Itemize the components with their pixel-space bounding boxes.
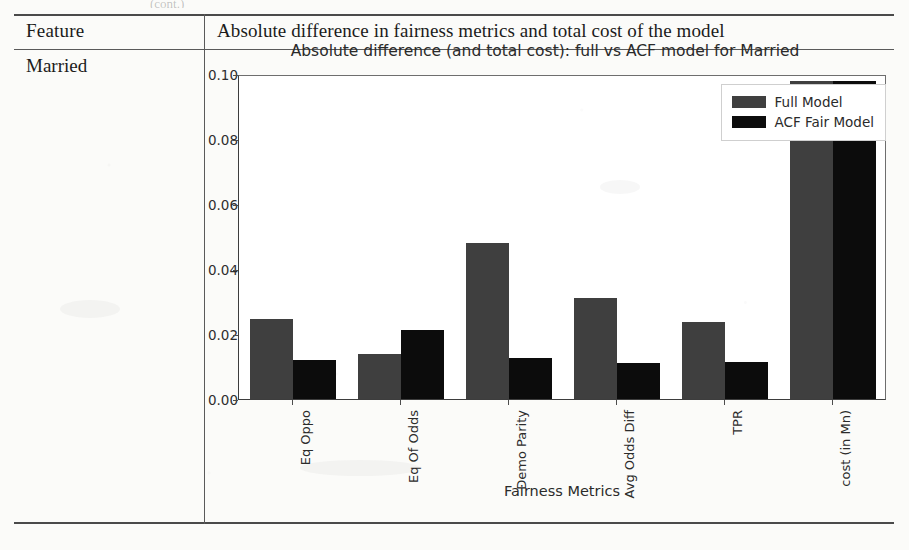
bar-full-model [250,319,293,399]
bar-acf-fair-model [293,360,336,399]
legend-item-full-model: Full Model [732,92,874,112]
bar-full-model [358,354,401,400]
x-axis-tick-mark [616,400,617,405]
bar-acf-fair-model [725,362,768,399]
x-axis-tick-mark [832,400,833,405]
y-axis-tick-mark [233,400,238,401]
chart-legend: Full Model ACF Fair Model [721,84,886,141]
x-axis-tick-mark [292,400,293,405]
table-top-rule [14,14,894,16]
legend-swatch-full-model [732,96,766,108]
x-axis-title: Fairness Metrics [238,483,886,499]
x-axis-tick-label: Eq Of Odds [406,410,421,483]
x-axis-tick-label: cost (in Mn) [838,410,853,487]
table-header-feature: Feature [26,20,84,42]
x-axis-tick-mark [724,400,725,405]
x-axis-tick-label: Demo Parity [514,410,529,490]
legend-label-full-model: Full Model [775,94,843,110]
clipped-page-header: (cont.) [150,0,570,8]
bar-full-model [466,243,509,399]
x-axis-tick-mark [400,400,401,405]
bar-acf-fair-model [401,330,444,399]
bar-chart: Absolute difference (and total cost): fu… [196,36,894,506]
bar-full-model [574,298,617,399]
x-axis-tick-mark [508,400,509,405]
legend-item-acf-fair-model: ACF Fair Model [732,112,874,132]
legend-label-acf-fair-model: ACF Fair Model [775,114,874,130]
x-axis-tick-label: TPR [730,410,745,435]
bar-acf-fair-model [617,363,660,399]
x-axis-tick-label: Eq Oppo [298,410,313,465]
table-bottom-rule [14,522,894,524]
bar-acf-fair-model [509,358,552,399]
legend-swatch-acf-fair-model [732,116,766,128]
bar-full-model [682,322,725,399]
chart-title: Absolute difference (and total cost): fu… [196,42,894,60]
table-cell-feature-married: Married [26,55,87,77]
